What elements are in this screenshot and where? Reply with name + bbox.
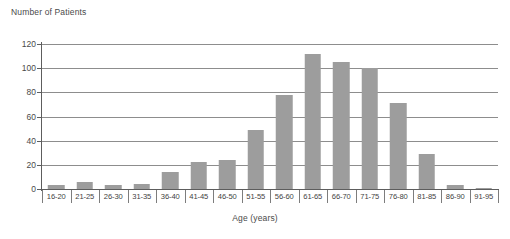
bar[interactable] bbox=[475, 188, 492, 189]
x-tick-separator bbox=[413, 190, 414, 203]
x-tick-separator bbox=[185, 190, 186, 203]
bar[interactable] bbox=[361, 68, 378, 189]
x-tick-label: 61-65 bbox=[299, 190, 328, 204]
bar-slot bbox=[299, 44, 328, 189]
y-tick-mark bbox=[37, 141, 42, 142]
x-tick-separator bbox=[327, 190, 328, 203]
x-tick-label: 81-85 bbox=[413, 190, 442, 204]
y-tick-label: 60 bbox=[6, 113, 36, 122]
x-tick-separator bbox=[71, 190, 72, 203]
bar-slot bbox=[213, 44, 242, 189]
y-tick-label: 40 bbox=[6, 137, 36, 146]
x-tick-separator bbox=[128, 190, 129, 203]
x-tick-label: 41-45 bbox=[185, 190, 214, 204]
x-tick-separator bbox=[156, 190, 157, 203]
x-tick-separator bbox=[42, 190, 43, 203]
bar[interactable] bbox=[447, 185, 464, 189]
bar-slot bbox=[384, 44, 413, 189]
x-tick-separator bbox=[356, 190, 357, 203]
bar[interactable] bbox=[304, 54, 321, 189]
bar[interactable] bbox=[190, 162, 207, 189]
x-tick-separator bbox=[498, 190, 499, 203]
bar[interactable] bbox=[162, 172, 179, 189]
y-tick-mark bbox=[37, 68, 42, 69]
bar-slot bbox=[441, 44, 470, 189]
bar-slot bbox=[270, 44, 299, 189]
bar-series bbox=[42, 44, 498, 189]
y-tick-mark bbox=[37, 189, 42, 190]
bar-slot bbox=[71, 44, 100, 189]
bar[interactable] bbox=[333, 62, 350, 189]
x-tick-separator bbox=[384, 190, 385, 203]
bar[interactable] bbox=[247, 130, 264, 189]
bar[interactable] bbox=[76, 182, 93, 189]
bar[interactable] bbox=[219, 160, 236, 189]
x-tick-label: 26-30 bbox=[99, 190, 128, 204]
x-tick-label: 16-20 bbox=[42, 190, 71, 204]
y-tick-mark bbox=[37, 44, 42, 45]
x-tick-separator bbox=[441, 190, 442, 203]
x-tick-label: 66-70 bbox=[327, 190, 356, 204]
bar[interactable] bbox=[105, 185, 122, 189]
y-tick-label: 100 bbox=[6, 64, 36, 73]
bar-chart: Number of Patients 020406080100120 16-20… bbox=[0, 0, 510, 239]
x-tick-label: 86-90 bbox=[441, 190, 470, 204]
bar-slot bbox=[156, 44, 185, 189]
x-tick-label: 36-40 bbox=[156, 190, 185, 204]
x-tick-label: 76-80 bbox=[384, 190, 413, 204]
bar[interactable] bbox=[133, 184, 150, 189]
bar-slot bbox=[128, 44, 157, 189]
x-tick-label: 46-50 bbox=[213, 190, 242, 204]
y-tick-mark bbox=[37, 92, 42, 93]
bar-slot bbox=[327, 44, 356, 189]
bar-slot bbox=[356, 44, 385, 189]
bar-slot bbox=[413, 44, 442, 189]
bar-slot bbox=[470, 44, 499, 189]
x-tick-label: 51-55 bbox=[242, 190, 271, 204]
x-axis-tick-labels: 16-2021-2526-3031-3536-4041-4546-5051-55… bbox=[42, 190, 498, 204]
x-tick-label: 31-35 bbox=[128, 190, 157, 204]
y-axis-tick-labels: 020406080100120 bbox=[0, 0, 36, 239]
x-tick-separator bbox=[99, 190, 100, 203]
bar-slot bbox=[42, 44, 71, 189]
bar[interactable] bbox=[390, 103, 407, 189]
x-tick-label: 91-95 bbox=[470, 190, 499, 204]
x-tick-separator bbox=[299, 190, 300, 203]
x-tick-separator bbox=[270, 190, 271, 203]
bar[interactable] bbox=[418, 154, 435, 189]
x-tick-separator bbox=[470, 190, 471, 203]
x-tick-label: 21-25 bbox=[71, 190, 100, 204]
y-tick-label: 120 bbox=[6, 40, 36, 49]
y-tick-mark bbox=[37, 165, 42, 166]
x-tick-label: 56-60 bbox=[270, 190, 299, 204]
y-tick-mark bbox=[37, 117, 42, 118]
x-axis-title: Age (years) bbox=[0, 213, 510, 223]
x-tick-label: 71-75 bbox=[356, 190, 385, 204]
y-tick-label: 20 bbox=[6, 161, 36, 170]
bar-slot bbox=[185, 44, 214, 189]
bar-slot bbox=[242, 44, 271, 189]
y-tick-label: 80 bbox=[6, 88, 36, 97]
x-tick-separator bbox=[242, 190, 243, 203]
y-tick-label: 0 bbox=[6, 185, 36, 194]
bar-slot bbox=[99, 44, 128, 189]
x-tick-separator bbox=[213, 190, 214, 203]
bar[interactable] bbox=[276, 95, 293, 189]
bar[interactable] bbox=[48, 185, 65, 189]
